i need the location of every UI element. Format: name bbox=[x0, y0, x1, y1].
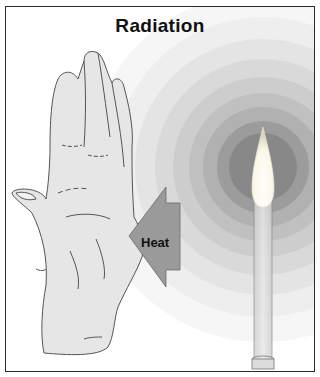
diagram-title: Radiation bbox=[6, 15, 314, 37]
candle bbox=[252, 199, 274, 369]
hand bbox=[12, 51, 143, 354]
diagram-frame: Radiation Heat bbox=[5, 6, 315, 372]
heat-arrow-label: Heat bbox=[141, 235, 169, 250]
diagram-canvas bbox=[6, 7, 314, 371]
